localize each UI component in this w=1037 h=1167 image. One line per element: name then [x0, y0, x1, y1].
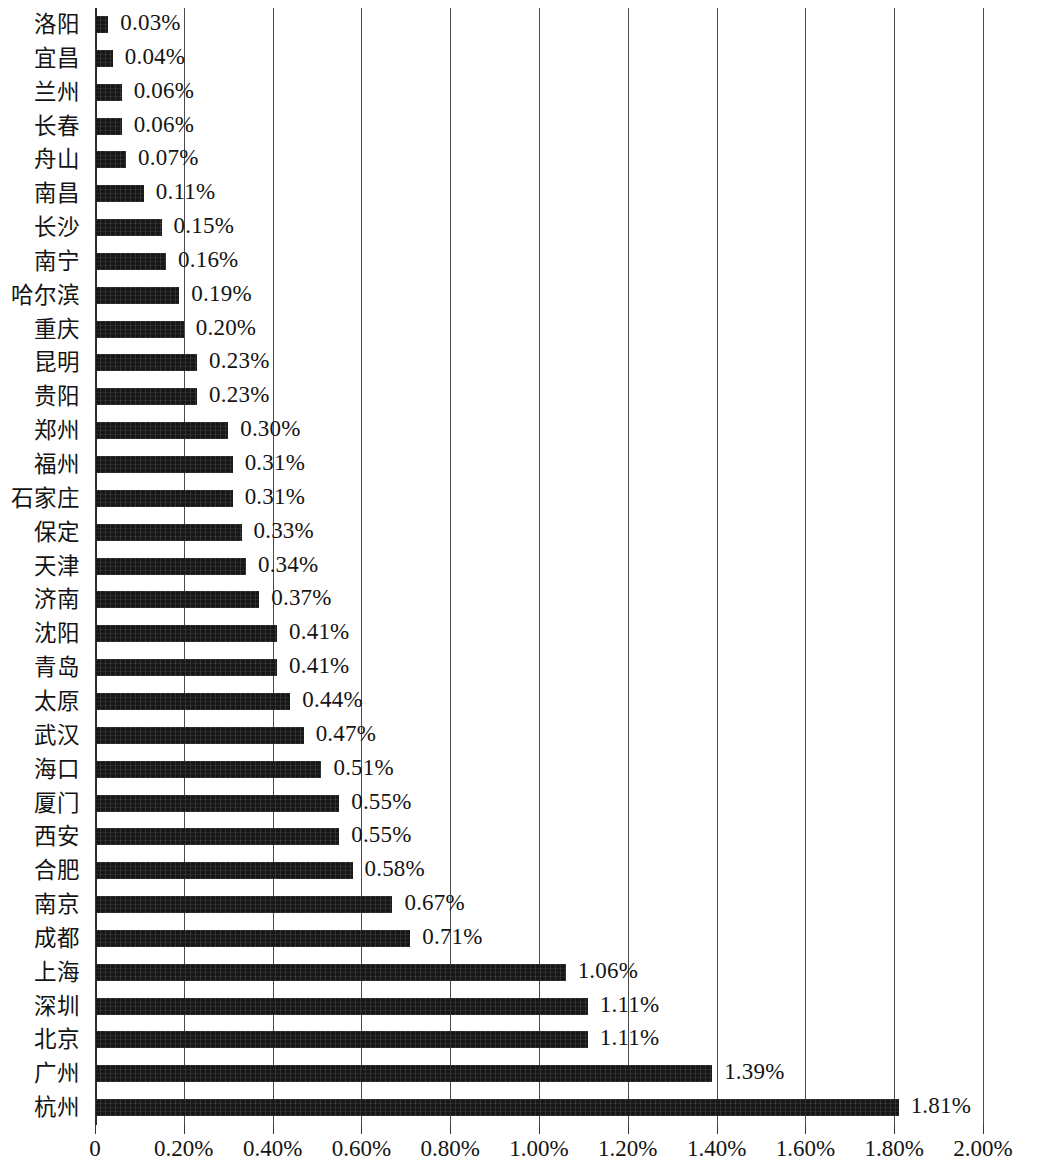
bar-row: 0.07% [95, 143, 983, 177]
bar-value-label: 0.19% [191, 281, 251, 307]
bar[interactable] [95, 151, 126, 168]
bar[interactable] [95, 761, 321, 778]
axis-tick [983, 1125, 984, 1134]
bar-row: 0.44% [95, 685, 983, 719]
category-label: 昆明 [34, 346, 80, 380]
bar-row: 0.23% [95, 380, 983, 414]
bar-row: 0.19% [95, 279, 983, 313]
category-label: 石家庄 [11, 482, 80, 516]
value-axis-tick-label: 1.20% [598, 1136, 657, 1162]
bar-row: 0.55% [95, 787, 983, 821]
bar-value-label: 0.34% [258, 552, 318, 578]
category-label: 长春 [34, 110, 80, 144]
bar-row: 0.15% [95, 211, 983, 245]
bar[interactable] [95, 625, 277, 642]
bar[interactable] [95, 828, 339, 845]
bar-value-label: 0.07% [138, 145, 198, 171]
bar-value-label: 0.11% [156, 179, 216, 205]
bar-row: 0.11% [95, 177, 983, 211]
bar-value-label: 1.11% [600, 992, 660, 1018]
bar-row: 1.39% [95, 1057, 983, 1091]
bar[interactable] [95, 456, 233, 473]
category-label: 厦门 [34, 787, 80, 821]
bar-value-label: 0.55% [351, 789, 411, 815]
bar[interactable] [95, 354, 197, 371]
bar[interactable] [95, 659, 277, 676]
axis-tick [273, 1125, 274, 1134]
value-axis-tick-label: 2.00% [953, 1136, 1012, 1162]
bar-row: 0.51% [95, 753, 983, 787]
bar[interactable] [95, 795, 339, 812]
bar[interactable] [95, 998, 588, 1015]
category-label: 贵阳 [34, 380, 80, 414]
bar[interactable] [95, 693, 290, 710]
bar[interactable] [95, 321, 184, 338]
bar[interactable] [95, 591, 259, 608]
category-label: 洛阳 [34, 8, 80, 42]
bar[interactable] [95, 862, 353, 879]
bar[interactable] [95, 1099, 899, 1116]
bar[interactable] [95, 490, 233, 507]
bar[interactable] [95, 253, 166, 270]
axis-tick [539, 1125, 540, 1134]
bar-value-label: 0.04% [125, 44, 185, 70]
bar-row: 0.37% [95, 583, 983, 617]
bar-row: 1.11% [95, 990, 983, 1024]
bar-value-label: 0.20% [196, 315, 256, 341]
category-label: 南宁 [34, 245, 80, 279]
bar[interactable] [95, 16, 108, 33]
bar[interactable] [95, 930, 410, 947]
category-label: 青岛 [34, 651, 80, 685]
bar[interactable] [95, 50, 113, 67]
value-axis-tick-label: 1.00% [509, 1136, 568, 1162]
category-label: 重庆 [34, 313, 80, 347]
category-axis-labels: 洛阳宜昌兰州长春舟山南昌长沙南宁哈尔滨重庆昆明贵阳郑州福州石家庄保定天津济南沈阳… [0, 8, 88, 1125]
bar-row: 0.71% [95, 922, 983, 956]
bar-value-label: 0.55% [351, 822, 411, 848]
bar[interactable] [95, 1065, 712, 1082]
bar-value-label: 1.11% [600, 1025, 660, 1051]
bar-value-label: 0.06% [134, 78, 194, 104]
category-label: 成都 [34, 922, 80, 956]
category-label: 哈尔滨 [11, 279, 80, 313]
bar-value-label: 0.23% [209, 348, 269, 374]
category-label: 天津 [34, 550, 80, 584]
bar-value-label: 0.71% [422, 924, 482, 950]
bar-value-label: 0.23% [209, 382, 269, 408]
bar-value-label: 0.30% [240, 416, 300, 442]
category-label: 郑州 [34, 414, 80, 448]
bar[interactable] [95, 219, 162, 236]
value-axis-tick-label: 1.60% [776, 1136, 835, 1162]
bar[interactable] [95, 727, 304, 744]
bar-row: 0.31% [95, 448, 983, 482]
bar[interactable] [95, 84, 122, 101]
bar[interactable] [95, 185, 144, 202]
bar[interactable] [95, 287, 179, 304]
axis-tick [717, 1125, 718, 1134]
bar[interactable] [95, 524, 242, 541]
bar[interactable] [95, 558, 246, 575]
category-label: 合肥 [34, 854, 80, 888]
bar-value-label: 0.58% [365, 856, 425, 882]
bar[interactable] [95, 422, 228, 439]
bar[interactable] [95, 964, 566, 981]
bar[interactable] [95, 896, 392, 913]
bar-row: 0.55% [95, 820, 983, 854]
gridline [983, 8, 984, 1125]
category-label: 兰州 [34, 76, 80, 110]
bar[interactable] [95, 1031, 588, 1048]
category-label: 长沙 [34, 211, 80, 245]
bar[interactable] [95, 388, 197, 405]
bar-value-label: 0.31% [245, 484, 305, 510]
bar-value-label: 1.81% [911, 1093, 971, 1119]
bar[interactable] [95, 118, 122, 135]
bar-value-label: 0.44% [302, 687, 362, 713]
bar-value-label: 0.67% [404, 890, 464, 916]
bar-row: 1.11% [95, 1023, 983, 1057]
category-label: 太原 [34, 685, 80, 719]
category-label: 福州 [34, 448, 80, 482]
bar-row: 0.03% [95, 8, 983, 42]
bar-value-label: 0.16% [178, 247, 238, 273]
value-axis-tick-label: 1.80% [864, 1136, 923, 1162]
axis-tick [361, 1125, 362, 1134]
